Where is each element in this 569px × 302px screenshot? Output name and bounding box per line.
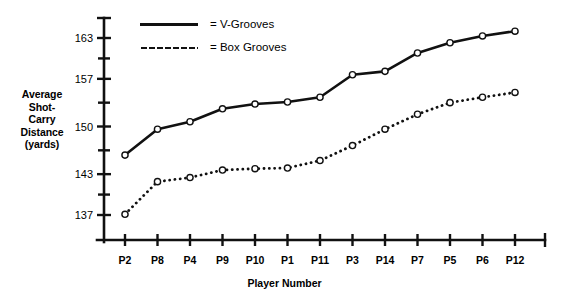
- y-axis-title-line-5: (yards): [8, 138, 76, 151]
- data-point-marker: [512, 28, 518, 34]
- data-point-marker: [187, 119, 193, 125]
- y-axis-tick-label: 143: [59, 168, 93, 180]
- data-point-marker: [317, 94, 323, 100]
- data-point-marker: [349, 72, 355, 78]
- data-point-marker: [349, 142, 355, 148]
- data-point-marker: [382, 68, 388, 74]
- data-point-marker: [382, 126, 388, 132]
- data-point-marker: [252, 166, 258, 172]
- legend-item-v-grooves: = V-Grooves: [140, 14, 370, 34]
- data-point-marker: [154, 126, 160, 132]
- legend-label-box-grooves: = Box Grooves: [198, 41, 286, 53]
- data-point-marker: [317, 157, 323, 163]
- series-line-box-grooves: [125, 92, 515, 214]
- legend-item-box-grooves: = Box Grooves: [140, 37, 370, 57]
- legend-key-dotted-line-icon: [140, 41, 198, 53]
- data-point-marker: [414, 50, 420, 56]
- data-point-marker: [122, 211, 128, 217]
- data-point-marker: [414, 111, 420, 117]
- data-point-marker: [122, 152, 128, 158]
- y-axis-tick-label: 150: [59, 121, 93, 133]
- data-point-marker: [284, 165, 290, 171]
- y-axis-tick-label: 137: [59, 209, 93, 221]
- y-axis-tick-label: 157: [59, 73, 93, 85]
- data-point-marker: [154, 179, 160, 185]
- x-axis-title: Player Number: [0, 277, 569, 289]
- data-point-marker: [447, 40, 453, 46]
- data-point-marker: [187, 174, 193, 180]
- data-point-marker: [447, 100, 453, 106]
- data-point-marker: [512, 89, 518, 95]
- chart-legend: = V-Grooves = Box Grooves: [140, 14, 370, 60]
- legend-key-solid-line-icon: [140, 18, 198, 30]
- data-point-marker: [284, 99, 290, 105]
- y-axis-title-line-1: Average: [8, 88, 76, 101]
- data-point-marker: [479, 94, 485, 100]
- legend-label-v-grooves: = V-Grooves: [198, 18, 274, 30]
- data-point-marker: [479, 33, 485, 39]
- y-axis-tick-label: 163: [59, 32, 93, 44]
- data-point-marker: [252, 101, 258, 107]
- x-axis-tick-label: P12: [495, 254, 535, 266]
- data-point-marker: [219, 167, 225, 173]
- chart-figure: Average Shot- Carry Distance (yards) = V…: [0, 0, 569, 302]
- y-axis-title: Average Shot- Carry Distance (yards): [8, 88, 76, 151]
- y-axis-title-line-2: Shot-: [8, 101, 76, 114]
- data-point-marker: [219, 106, 225, 112]
